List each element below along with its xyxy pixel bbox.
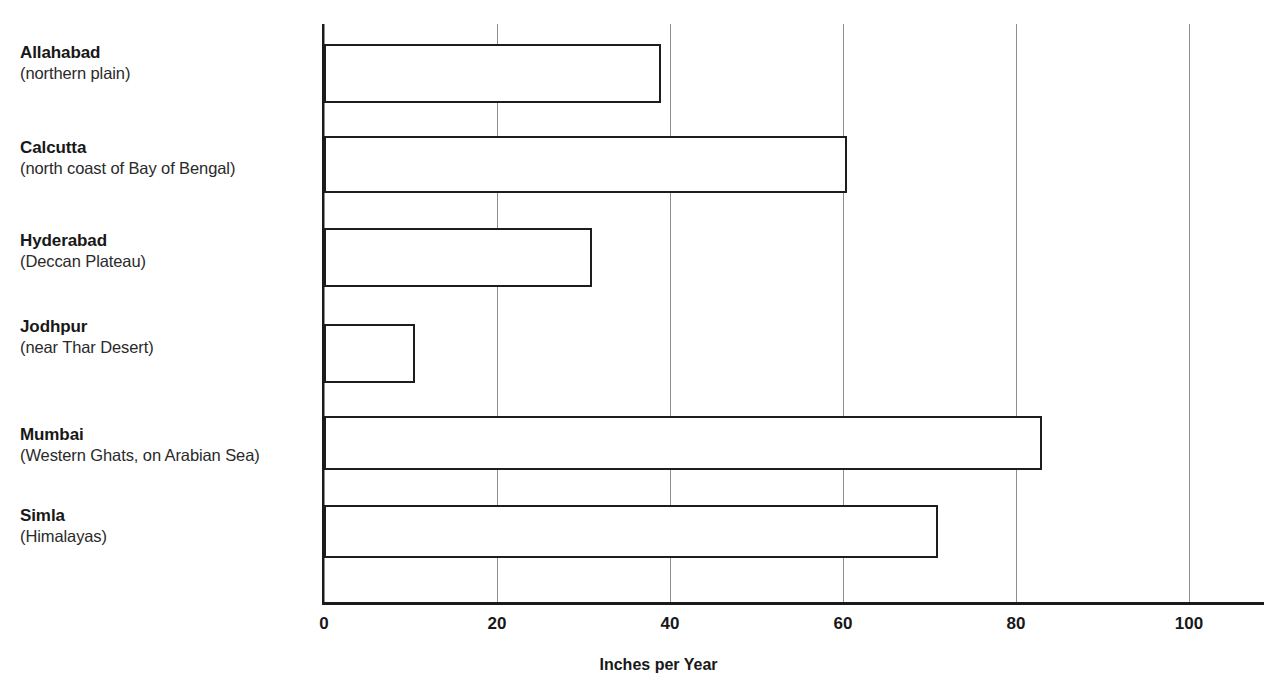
category-label-simla: Simla (Himalayas) [20, 505, 312, 547]
x-tick-label-100: 100 [1175, 614, 1203, 634]
gridline-100 [1189, 24, 1190, 602]
x-axis-title-text: Inches per Year [600, 656, 718, 674]
bar [324, 136, 847, 193]
bar [324, 228, 592, 287]
plot-area [324, 24, 1264, 602]
x-tick-label-60: 60 [834, 614, 853, 634]
x-tick-label-80: 80 [1007, 614, 1026, 634]
x-tick-label-20: 20 [488, 614, 507, 634]
category-sublabel: (Western Ghats, on Arabian Sea) [20, 445, 312, 466]
bar [324, 324, 415, 383]
category-name: Allahabad [20, 42, 312, 63]
gridline-80 [1016, 24, 1017, 602]
category-name: Hyderabad [20, 230, 312, 251]
category-sublabel: (Himalayas) [20, 526, 312, 547]
category-label-allahabad: Allahabad (northern plain) [20, 42, 312, 84]
category-sublabel: (near Thar Desert) [20, 337, 312, 358]
bar [324, 44, 661, 103]
category-name: Simla [20, 505, 312, 526]
category-label-jodhpur: Jodhpur (near Thar Desert) [20, 316, 312, 358]
category-name: Mumbai [20, 424, 312, 445]
category-label-hyderabad: Hyderabad (Deccan Plateau) [20, 230, 312, 272]
category-sublabel: (northern plain) [20, 63, 312, 84]
x-tick-label-0: 0 [319, 614, 328, 634]
category-label-column: Allahabad (northern plain) Calcutta (nor… [0, 0, 312, 600]
category-sublabel: (north coast of Bay of Bengal) [20, 158, 312, 179]
bar [324, 505, 938, 558]
category-name: Calcutta [20, 137, 312, 158]
bar [324, 416, 1042, 470]
x-axis-title: Inches per Year [0, 656, 1275, 674]
category-label-mumbai: Mumbai (Western Ghats, on Arabian Sea) [20, 424, 312, 466]
category-name: Jodhpur [20, 316, 312, 337]
category-sublabel: (Deccan Plateau) [20, 251, 312, 272]
x-axis-line [322, 602, 1264, 605]
x-tick-label-40: 40 [661, 614, 680, 634]
category-label-calcutta: Calcutta (north coast of Bay of Bengal) [20, 137, 312, 179]
bar-chart-figure: Allahabad (northern plain) Calcutta (nor… [0, 0, 1275, 696]
